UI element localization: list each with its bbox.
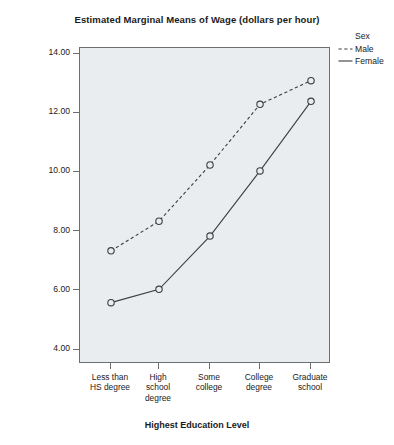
y-axis-tick-label: 6.00 xyxy=(24,284,70,294)
data-point-marker xyxy=(108,248,114,254)
data-point-marker xyxy=(308,77,314,83)
data-point-marker xyxy=(156,218,162,224)
legend-label: Female xyxy=(355,56,384,66)
x-axis-tick-label-line: degree xyxy=(128,393,188,403)
x-axis-tick-label-line: Graduate xyxy=(280,372,340,382)
chart-title: Estimated Marginal Means of Wage (dollar… xyxy=(0,14,394,25)
legend-line-swatch-solid xyxy=(338,56,353,66)
data-point-marker xyxy=(156,286,162,292)
legend-title: Sex xyxy=(355,31,384,41)
legend-item-female[interactable]: Female xyxy=(338,55,384,67)
y-axis-tick-label: 4.00 xyxy=(24,343,70,353)
chart-root: Estimated Marginal Means of Wage (dollar… xyxy=(0,0,394,445)
data-point-marker xyxy=(207,162,213,168)
y-axis-tick-label: 8.00 xyxy=(24,225,70,235)
series-line-female xyxy=(111,101,311,302)
plot-svg xyxy=(80,48,331,364)
data-point-marker xyxy=(308,98,314,104)
data-point-marker xyxy=(108,299,114,305)
x-axis-tick-label: Graduateschool xyxy=(280,372,340,393)
data-point-marker xyxy=(257,168,263,174)
x-axis-tick-label-line: school xyxy=(280,382,340,392)
x-axis-label: Highest Education Level xyxy=(0,420,394,430)
y-axis-tick-label: 10.00 xyxy=(24,165,70,175)
legend: Sex MaleFemale xyxy=(338,31,384,67)
data-point-marker xyxy=(207,233,213,239)
legend-line-swatch-dashed xyxy=(338,44,353,54)
data-point-marker xyxy=(257,101,263,107)
legend-label: Male xyxy=(355,44,374,54)
y-axis-tick-label: 14.00 xyxy=(24,47,70,57)
legend-item-male[interactable]: Male xyxy=(338,43,384,55)
plot-area xyxy=(79,47,330,363)
y-axis-tick-label: 12.00 xyxy=(24,106,70,116)
